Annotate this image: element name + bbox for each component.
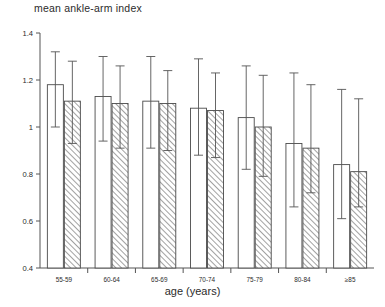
svg-text:80-84: 80-84 [294,276,311,283]
svg-text:75-79: 75-79 [247,276,264,283]
svg-text:65-69: 65-69 [151,276,168,283]
svg-text:0.8: 0.8 [22,170,33,179]
chart-container: mean ankle-arm index 0.40.60.811.21.4 55… [0,0,385,307]
svg-text:0.6: 0.6 [22,217,33,226]
y-axis: 0.40.60.811.21.4 [22,29,40,273]
svg-text:1: 1 [29,123,33,132]
x-tick-labels: 55-5960-6465-6970-7475-7980-84≥85 [56,276,356,283]
x-axis [40,268,374,273]
svg-text:55-59: 55-59 [56,276,73,283]
svg-text:60-64: 60-64 [103,276,120,283]
bar-chart-plot: 0.40.60.811.21.4 55-5960-6465-6970-7475-… [0,0,385,307]
bars-layer [47,85,366,268]
x-axis-title: age (years) [0,285,385,297]
svg-text:≥85: ≥85 [345,276,356,283]
svg-text:1.4: 1.4 [22,29,33,38]
svg-text:1.2: 1.2 [22,76,33,85]
svg-text:70-74: 70-74 [199,276,216,283]
svg-text:0.4: 0.4 [22,264,33,273]
